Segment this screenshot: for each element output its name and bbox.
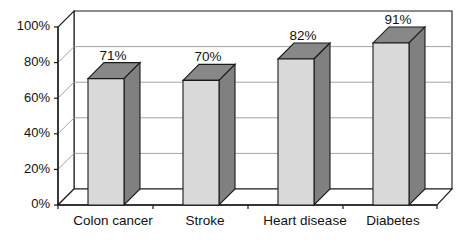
category-label-diabetes: Diabetes — [366, 213, 420, 228]
bar-group-colon-cancer[interactable] — [88, 63, 140, 205]
category-label-heart-disease: Heart disease — [263, 213, 346, 228]
bar-side-face — [219, 64, 235, 205]
bar-side-face — [314, 43, 330, 205]
bar-front-face — [278, 59, 314, 205]
bar-front-face — [88, 79, 124, 205]
bar-side-face — [409, 27, 425, 205]
y-tick-label-60: 60% — [24, 90, 50, 105]
value-label-stroke: 70% — [194, 49, 221, 64]
y-axis-tick-labels: 100% 80% 60% 40% 20% 0% — [17, 18, 51, 211]
chart-container: 100% 80% 60% 40% 20% 0% — [0, 0, 475, 242]
y-tick-label-100: 100% — [17, 18, 51, 33]
category-label-colon-cancer: Colon cancer — [73, 213, 153, 228]
x-axis-category-labels: Colon cancer Stroke Heart disease Diabet… — [73, 213, 420, 228]
plot-left-wall — [58, 11, 74, 205]
bar-front-face — [183, 80, 219, 205]
bar-front-face — [373, 43, 409, 205]
y-tick-label-0: 0% — [31, 196, 50, 211]
bar-group-heart-disease[interactable] — [278, 43, 330, 205]
value-label-colon-cancer: 71% — [99, 48, 126, 63]
bar-side-face — [124, 63, 140, 205]
value-label-diabetes: 91% — [384, 12, 411, 27]
y-tick-label-40: 40% — [24, 125, 50, 140]
bar-group-stroke[interactable] — [183, 64, 235, 205]
y-tick-label-80: 80% — [24, 54, 50, 69]
y-tick-label-20: 20% — [24, 161, 50, 176]
bar-chart-3d: 100% 80% 60% 40% 20% 0% — [0, 0, 475, 242]
value-label-heart-disease: 82% — [289, 28, 316, 43]
category-label-stroke: Stroke — [185, 213, 224, 228]
bar-group-diabetes[interactable] — [373, 27, 425, 205]
